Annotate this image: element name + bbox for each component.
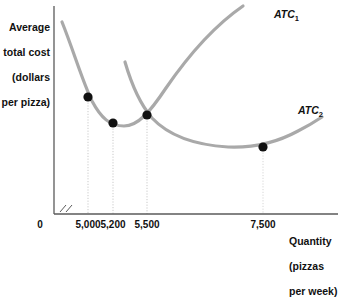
xtick-label-7500: 7,500 <box>241 219 285 230</box>
y-axis-label-line4: per pizza) <box>0 96 50 109</box>
atc1-curve <box>62 6 243 126</box>
origin-tick-label: 0 <box>33 219 47 230</box>
axis-break-mark-1 <box>60 205 66 212</box>
data-point-5200 <box>108 118 117 127</box>
y-axis-label-line2: total cost <box>0 46 50 59</box>
atc1-curve-label-subscript: 1 <box>295 14 299 23</box>
y-axis-label-line1: Average <box>0 21 50 34</box>
x-axis-label-line2: (pizzas <box>289 260 345 273</box>
x-axis-label: Quantity (pizzas per week) <box>289 222 345 301</box>
axis-break-mark-2 <box>66 205 72 212</box>
atc1-curve-label: ATC1 <box>274 8 299 23</box>
atc1-curve-label-text: ATC <box>274 8 295 20</box>
y-axis-label: Average total cost (dollars per pizza) <box>0 8 50 121</box>
atc2-curve-label-text: ATC <box>298 104 319 116</box>
data-point-7500 <box>258 142 267 151</box>
y-axis-label-line3: (dollars <box>0 71 50 84</box>
atc2-curve-label-subscript: 2 <box>319 110 323 119</box>
atc2-curve-label: ATC2 <box>298 104 323 119</box>
xtick-label-5500: 5,500 <box>125 219 169 230</box>
data-point-5500 <box>142 110 151 119</box>
x-axis-label-line3: per week) <box>289 285 345 298</box>
x-axis-label-line1: Quantity <box>289 235 345 248</box>
data-point-5000 <box>83 92 92 101</box>
